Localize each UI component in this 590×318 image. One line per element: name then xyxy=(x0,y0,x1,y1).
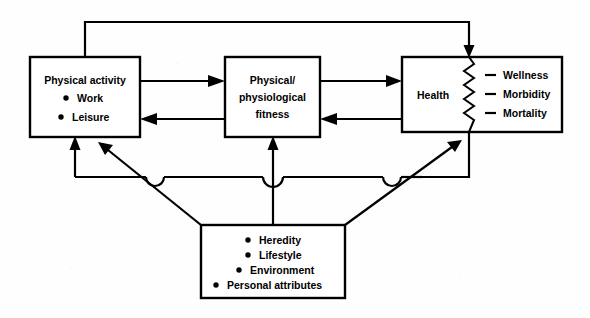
arrowhead-into-activity-right xyxy=(140,113,157,125)
health-outcome-1: Morbidity xyxy=(503,88,550,100)
health-outcome-2: Mortality xyxy=(503,107,547,119)
determinant-item-2: Environment xyxy=(250,264,315,276)
box-fitness-line-1: Physical/ xyxy=(250,74,296,86)
health-outcome-0: Wellness xyxy=(503,69,548,81)
determinant-item-1: Lifestyle xyxy=(259,249,302,261)
connector-health-bus-down xyxy=(422,132,469,177)
box-fitness-line-2: physiological xyxy=(239,91,306,103)
activity-item-1: Leisure xyxy=(72,111,110,123)
bus-hop-right xyxy=(383,177,401,186)
bullet-icon xyxy=(213,282,218,287)
arrowhead-into-health-left xyxy=(386,75,402,87)
connector-determinants-diagonal-right xyxy=(345,147,452,225)
bullet-icon xyxy=(63,95,68,100)
box-health-title: Health xyxy=(417,89,449,101)
bullet-icon xyxy=(236,267,241,272)
arrowhead-into-fitness-left xyxy=(208,75,225,87)
diagram-canvas: Physical activity Work Leisure Physical/… xyxy=(0,0,590,318)
bullet-icon xyxy=(245,252,250,257)
bullet-icon xyxy=(58,114,63,119)
determinant-item-0: Heredity xyxy=(259,234,301,246)
arrowhead-into-fitness-right xyxy=(320,113,337,125)
activity-item-0: Work xyxy=(77,92,103,104)
box-physical-activity-title: Physical activity xyxy=(44,74,126,86)
connector-determinants-diagonal-left xyxy=(108,150,201,225)
flow-diagram: Physical activity Work Leisure Physical/… xyxy=(0,0,590,318)
determinant-item-3: Personal attributes xyxy=(227,279,322,291)
connector-activity-to-health-feedback xyxy=(85,22,469,57)
bullet-icon xyxy=(245,237,250,242)
box-fitness-line-3: fitness xyxy=(256,108,290,120)
